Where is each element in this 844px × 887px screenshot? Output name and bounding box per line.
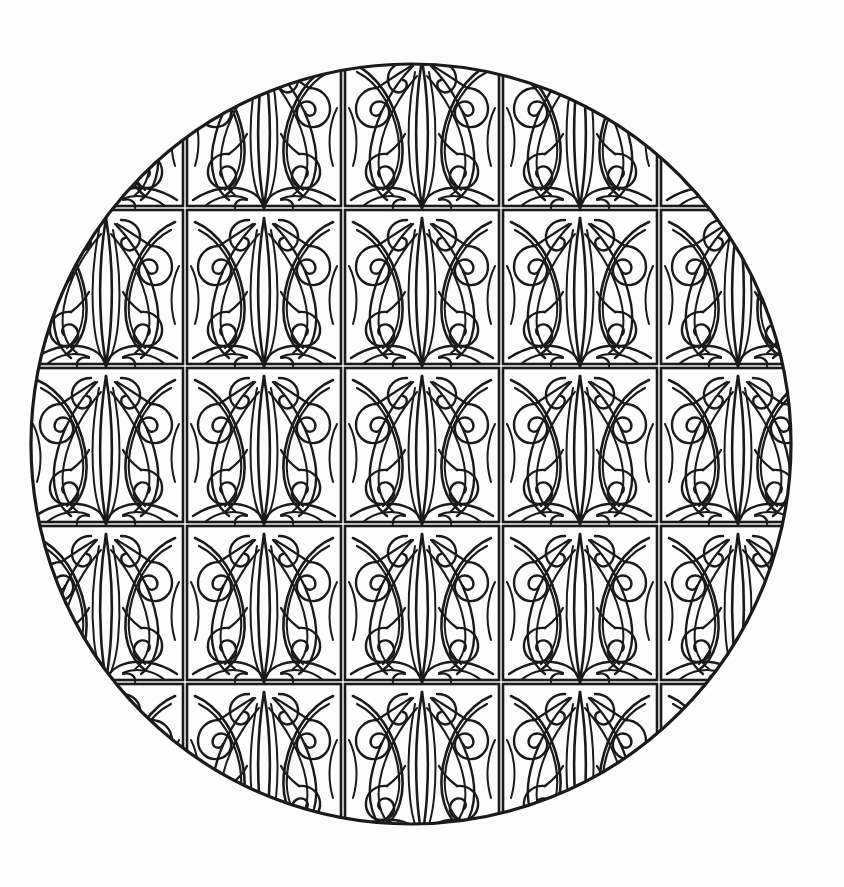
paper-background [0,0,844,887]
artwork-canvas [0,0,844,887]
artboard: Circular Maori Kowhaiwhai Koru Panel Pat… [0,0,844,887]
